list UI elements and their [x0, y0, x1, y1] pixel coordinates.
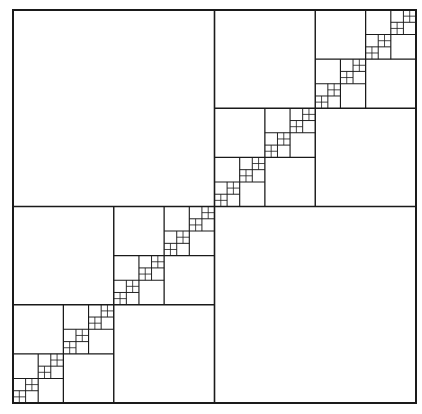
fractal-quadtree-diagram — [0, 0, 422, 414]
